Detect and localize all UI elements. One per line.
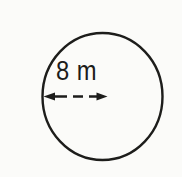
radius-arrow [44, 92, 108, 100]
diagram-canvas: 8 m [0, 0, 182, 177]
arrowhead-right-icon [97, 92, 108, 100]
radius-label: 8 m [56, 58, 97, 85]
circle-figure [0, 0, 182, 177]
arrowhead-left-icon [44, 92, 56, 100]
